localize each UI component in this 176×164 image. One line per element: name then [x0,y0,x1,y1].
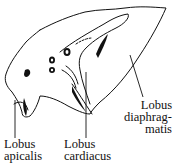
label-lobus-cardiacus: Lobus cardiacus [64,138,111,162]
label-lobus-apicalis: Lobus apicalis [4,138,42,162]
shadow-cardiac [72,86,86,112]
hilum-lines [62,66,78,88]
shadow-apical [23,98,27,116]
upper-lobe-inner-outline [60,14,128,104]
label-text: cardiacus [64,150,111,162]
label-text: matis [124,123,172,135]
shadow-diaphragmatic [96,34,108,58]
label-lobus-diaphragmatis: Lobus diaphrag- matis [124,99,172,135]
label-text: apicalis [4,150,42,162]
vessel-mark [24,69,30,77]
